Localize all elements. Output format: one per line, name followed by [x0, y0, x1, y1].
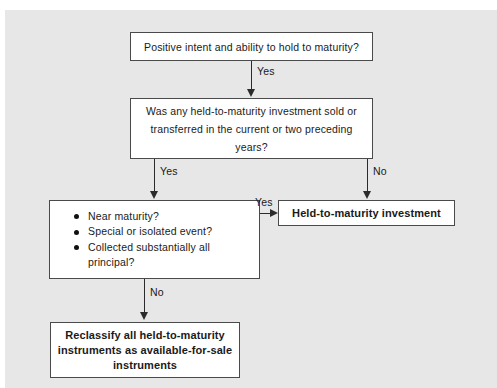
connector-q2-to-htm-line [367, 159, 368, 192]
connector-criteria-to-reclassify-line [144, 279, 145, 313]
node-question-positive-intent-line-1: Positive intent and ability to hold to m… [144, 41, 359, 53]
edge-label-criteria-to-reclassify: No [150, 286, 164, 298]
flowchart-root: Positive intent and ability to hold to m… [0, 0, 497, 388]
criteria-bullet-item: Collected substantially all [74, 240, 259, 256]
connector-q2-to-criteria-line [154, 159, 155, 192]
criteria-bullet-continuation: principal? [50, 255, 259, 271]
criteria-bullet-list: Near maturity? Special or isolated event… [50, 209, 259, 256]
criteria-bullet-item: Near maturity? [74, 209, 259, 225]
connector-q2-to-htm-arrowhead [363, 191, 371, 199]
node-question-sold-or-transferred-line-3: years? [235, 138, 267, 156]
edge-label-criteria-to-htm: Yes [255, 196, 273, 208]
node-question-sold-or-transferred: Was any held-to-maturity investment sold… [130, 98, 373, 159]
node-outcome-held-to-maturity: Held-to-maturity investment [278, 200, 455, 226]
node-question-sold-or-transferred-line-1: Was any held-to-maturity investment sold… [146, 102, 357, 120]
node-outcome-reclassify-line-2: instruments as available-for-sale [58, 343, 232, 358]
connector-criteria-to-htm-arrowhead [270, 209, 278, 217]
node-criteria-list: Near maturity? Special or isolated event… [49, 200, 260, 279]
node-outcome-reclassify: Reclassify all held-to-maturity instrume… [50, 322, 240, 378]
node-question-sold-or-transferred-line-2: transferred in the current or two preced… [151, 120, 353, 138]
connector-q1-to-q2-line [251, 61, 252, 90]
connector-q1-to-q2-arrowhead [247, 89, 255, 97]
connector-criteria-to-reclassify-arrowhead [140, 312, 148, 320]
node-outcome-held-to-maturity-line-1: Held-to-maturity investment [292, 207, 441, 219]
criteria-bullet-item: Special or isolated event? [74, 224, 259, 240]
node-outcome-reclassify-line-3: instruments [113, 358, 177, 373]
edge-label-q2-to-htm: No [373, 165, 387, 177]
diagram-canvas: Positive intent and ability to hold to m… [5, 10, 497, 388]
edge-label-q2-to-criteria: Yes [160, 165, 178, 177]
node-outcome-reclassify-line-1: Reclassify all held-to-maturity [65, 328, 225, 343]
connector-q2-to-criteria-arrowhead [150, 191, 158, 199]
edge-label-q1-to-q2: Yes [257, 65, 275, 77]
node-question-positive-intent: Positive intent and ability to hold to m… [130, 32, 373, 61]
